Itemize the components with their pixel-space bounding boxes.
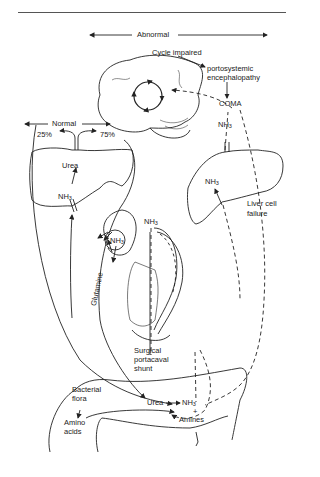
failing-liver-icon — [187, 150, 283, 224]
amino-acids-line2: acids — [64, 428, 82, 437]
percent-75-label: 75% — [100, 131, 115, 140]
normal-liver-icon — [30, 148, 134, 206]
normal-label: Normal — [52, 120, 76, 129]
failing-liver-nh3-top: NH3 — [218, 121, 232, 131]
percent-25-label: 25% — [37, 131, 52, 140]
urea-label: Urea — [62, 162, 78, 171]
cycle-impaired-label: Cycle impaired — [152, 49, 202, 58]
kidney-nh3-label: NH3 — [110, 237, 124, 247]
shunt-nh3-label: NH3 — [144, 218, 158, 228]
pse-label-line2: encephalopathy — [207, 74, 260, 83]
amines-label: Amines — [179, 416, 204, 425]
failing-liver-nh3-inner: NH3 — [205, 178, 219, 188]
normal-liver-nh3-label: NH3 — [58, 193, 72, 203]
bacterial-flora-line2: flora — [72, 395, 87, 404]
liver-failure-label-line2: failure — [247, 210, 267, 219]
abnormal-label: Abnormal — [137, 31, 169, 40]
gut-urea-label: Urea — [147, 399, 163, 408]
liver-failure-label-line1: Liver cell — [247, 200, 277, 209]
shunt-label-line3: shunt — [134, 365, 152, 374]
coma-label: COMA — [219, 100, 242, 109]
brain-icon — [98, 55, 202, 132]
